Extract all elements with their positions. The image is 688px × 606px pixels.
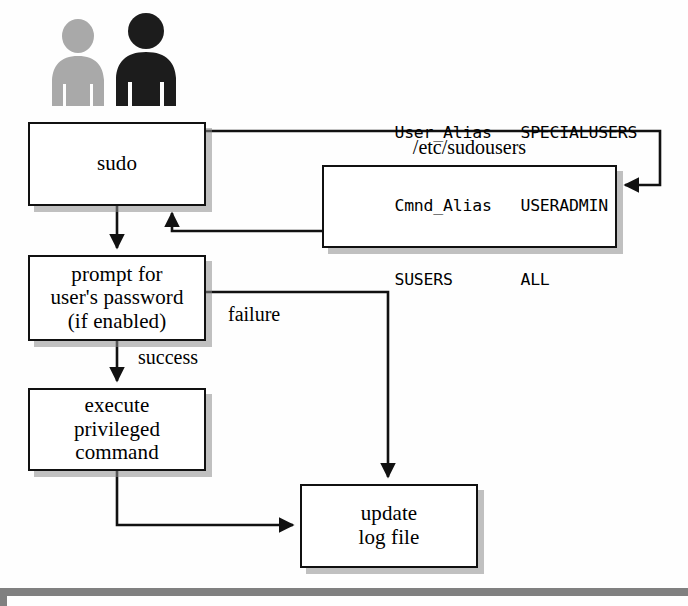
node-prompt-line-1: user's password — [50, 286, 183, 310]
page-footer-rule-tick — [0, 588, 7, 606]
sudoers-row-0-col-0: User_Alias — [394, 121, 520, 145]
node-update-line-0: update — [361, 502, 418, 526]
node-prompt-line-0: prompt for — [71, 263, 162, 287]
sudoers-row-2-col-1: ALL — [520, 270, 549, 289]
page-footer-rule — [0, 588, 688, 596]
edge-label-failure: failure — [228, 303, 280, 326]
edge-execute-to-update — [117, 471, 293, 525]
sudoers-row: User_AliasSPECIALUSERS — [336, 97, 615, 170]
sudoers-row: Cmnd_AliasUSERADMIN — [336, 170, 615, 243]
sudoers-row-2-col-0: SUSERS — [394, 268, 520, 292]
figure-canvas: sudo prompt for user's password (if enab… — [0, 0, 688, 606]
user-dark-icon — [114, 12, 178, 106]
node-prompt-for-password[interactable]: prompt for user's password (if enabled) — [28, 255, 206, 341]
node-execute-line-1: privileged — [74, 418, 160, 442]
node-sudo-line-0: sudo — [97, 152, 137, 176]
sudoers-row-1-col-0: Cmnd_Alias — [394, 194, 520, 218]
node-update-log-file[interactable]: update log file — [300, 484, 478, 568]
node-prompt-line-2: (if enabled) — [68, 310, 167, 334]
node-execute-privileged-command[interactable]: execute privileged command — [28, 388, 206, 471]
edge-sudoers-to-sudo — [172, 213, 322, 231]
sudoers-row-1-col-1: USERADMIN — [520, 196, 608, 215]
sudoers-row: SUSERSALL — [336, 243, 615, 316]
node-sudoers-file[interactable]: User_AliasSPECIALUSERS Cmnd_AliasUSERADM… — [322, 165, 617, 248]
node-update-line-1: log file — [359, 526, 420, 550]
user-light-icon — [50, 18, 106, 106]
node-execute-line-2: command — [75, 441, 159, 465]
sudoers-row-0-col-1: SPECIALUSERS — [520, 123, 637, 142]
node-sudo[interactable]: sudo — [28, 122, 206, 206]
node-execute-line-0: execute — [85, 394, 150, 418]
edge-label-success: success — [138, 346, 198, 369]
